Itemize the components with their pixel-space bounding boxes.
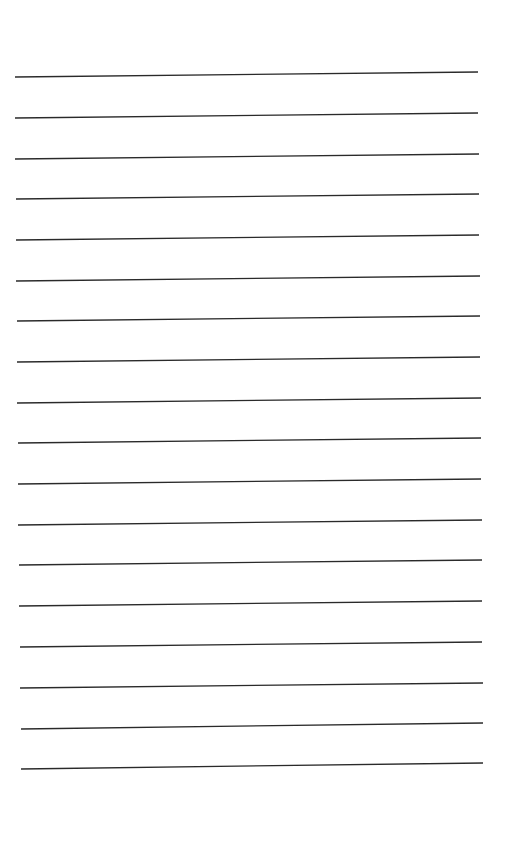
ruled-line <box>18 438 481 443</box>
ruled-line <box>15 72 478 77</box>
ruled-line <box>15 113 478 118</box>
ruled-line <box>19 601 482 606</box>
ruled-line <box>16 276 480 281</box>
ruled-line <box>21 723 483 729</box>
ruled-line <box>17 398 481 403</box>
lined-paper-page <box>0 0 514 844</box>
ruled-line <box>20 683 483 688</box>
ruled-line <box>15 154 479 159</box>
ruled-line <box>16 194 479 199</box>
ruled-lines <box>0 0 514 844</box>
ruled-line <box>17 316 480 321</box>
ruled-line <box>19 560 482 565</box>
ruled-line <box>17 357 480 362</box>
ruled-line <box>16 235 479 240</box>
ruled-line <box>18 520 482 525</box>
ruled-line <box>18 479 481 484</box>
ruled-line <box>20 642 482 647</box>
ruled-line <box>21 763 483 769</box>
